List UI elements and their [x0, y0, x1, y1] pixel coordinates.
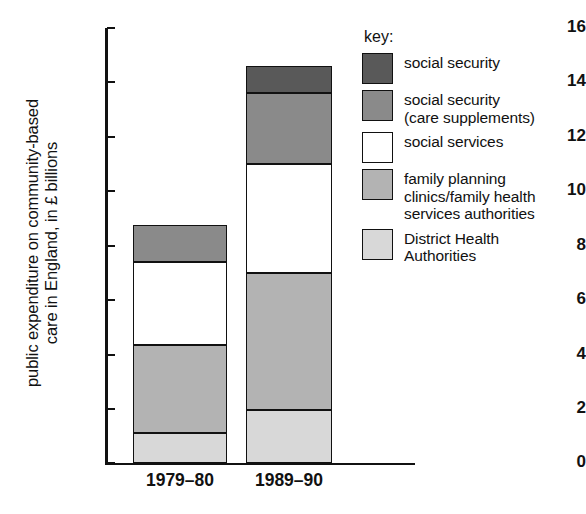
legend-label-line: social security: [404, 54, 500, 72]
legend-item-social-security[interactable]: social security: [362, 53, 586, 84]
legend-label-line: family planning: [404, 170, 535, 188]
legend-swatch-social-security: [362, 53, 393, 84]
legend-label-line: social services: [404, 133, 503, 151]
bar-segment-district-health[interactable]: [133, 433, 227, 463]
legend-label-line: social security: [404, 91, 535, 109]
y-tick-mark-6: [107, 299, 115, 301]
x-tick-label-1979-80: 1979–80: [120, 470, 240, 491]
bar-segment-care-supplements[interactable]: [133, 225, 227, 262]
legend-label-family-planning: family planning clinics/family health se…: [404, 169, 535, 223]
y-tick-mark-12: [107, 136, 115, 138]
legend-label-line: District Health: [404, 230, 499, 248]
y-tick-label-4: 4: [552, 344, 586, 364]
legend-title: key:: [364, 28, 586, 46]
y-tick-mark-14: [107, 81, 115, 83]
y-tick-mark-8: [107, 245, 115, 247]
y-tick-mark-10: [107, 190, 115, 192]
legend-item-family-planning[interactable]: family planning clinics/family health se…: [362, 169, 586, 223]
legend-label-line: Authorities: [404, 247, 499, 265]
bar-segment-social-services[interactable]: [246, 164, 332, 273]
bar-1979-80[interactable]: [133, 225, 227, 463]
legend-label-line: clinics/family health: [404, 188, 535, 206]
legend-label-district-health: District Health Authorities: [404, 229, 499, 265]
y-tick-mark-4: [107, 354, 115, 356]
legend: key: social security social security (ca…: [362, 28, 586, 271]
legend-label-social-services: social services: [404, 132, 503, 151]
y-tick-label-2: 2: [552, 398, 586, 418]
stacked-bar-chart: public expenditure on community-based ca…: [0, 0, 586, 514]
y-tick-mark-16: [107, 27, 115, 29]
y-tick-mark-2: [107, 408, 115, 410]
legend-label-line: services authorities: [404, 205, 535, 223]
x-tick-label-1989-90: 1989–90: [229, 470, 349, 491]
legend-swatch-social-services: [362, 132, 393, 163]
bar-segment-family-planning[interactable]: [246, 273, 332, 410]
bar-segment-social-services[interactable]: [133, 262, 227, 345]
legend-swatch-family-planning: [362, 169, 393, 200]
y-tick-mark-0: [107, 462, 115, 464]
legend-item-district-health[interactable]: District Health Authorities: [362, 229, 586, 265]
y-tick-label-0: 0: [552, 452, 586, 472]
legend-label-care-supplements: social security (care supplements): [404, 90, 535, 126]
bar-segment-social-security[interactable]: [246, 66, 332, 93]
legend-label-social-security: social security: [404, 53, 500, 72]
legend-swatch-district-health: [362, 229, 393, 260]
bar-1989-90[interactable]: [246, 66, 332, 463]
bar-segment-family-planning[interactable]: [133, 345, 227, 433]
legend-label-line: (care supplements): [404, 109, 535, 127]
bar-segment-care-supplements[interactable]: [246, 93, 332, 164]
bar-segment-district-health[interactable]: [246, 410, 332, 463]
legend-item-care-supplements[interactable]: social security (care supplements): [362, 90, 586, 126]
legend-swatch-care-supplements: [362, 90, 393, 121]
y-tick-label-6: 6: [552, 289, 586, 309]
legend-item-social-services[interactable]: social services: [362, 132, 586, 163]
